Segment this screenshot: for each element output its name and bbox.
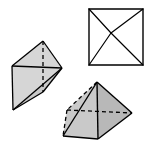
- geometry-figure: [0, 0, 150, 148]
- pyramid-edge-apex-frontright: [97, 82, 98, 139]
- shape-square-with-diagonals: [89, 9, 143, 65]
